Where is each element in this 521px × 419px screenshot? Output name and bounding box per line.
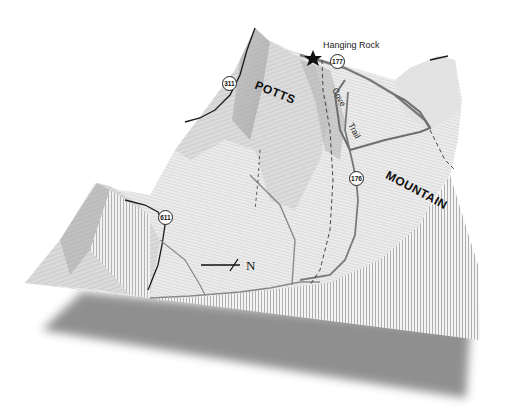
north-arrow-label: N bbox=[246, 258, 255, 274]
landmark-label: Hanging Rock bbox=[323, 40, 380, 50]
route-shield-311: 311 bbox=[222, 76, 237, 91]
terrain-map: Hanging Rock POTTS MOUNTAIN Cove Trail 3… bbox=[0, 0, 521, 419]
route-shield-176: 176 bbox=[349, 171, 364, 186]
route-shield-611: 611 bbox=[158, 210, 173, 225]
route-shield-177: 177 bbox=[330, 54, 345, 69]
